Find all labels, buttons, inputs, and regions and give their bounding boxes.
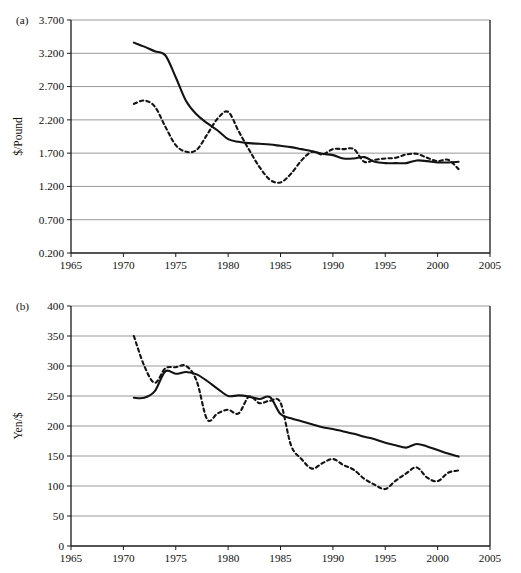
x-tick-label: 1990 (322, 552, 345, 564)
x-axis-ticks: 196519701975198019851990199520002005 (60, 253, 502, 271)
gridlines-group (71, 53, 490, 219)
y-tick-label: 350 (47, 330, 64, 342)
y-axis-title: Yen/$ (12, 412, 25, 439)
y-tick-label: 1.200 (39, 180, 65, 192)
gridlines-group (71, 336, 490, 516)
x-tick-label: 1975 (165, 552, 188, 564)
chart-panel-b: 0501001502002503003504001965197019751980… (0, 288, 521, 573)
y-tick-label: 3.700 (39, 14, 65, 26)
y-tick-label: 0.700 (39, 214, 65, 226)
figure-container: 0.2000.7001.2001.7002.2002.7003.2003.700… (0, 0, 521, 573)
series-line-dashed (134, 336, 459, 489)
x-tick-label: 1970 (112, 259, 135, 271)
x-tick-label: 2005 (479, 259, 502, 271)
series-line-solid (134, 43, 459, 164)
panel-label: (a) (16, 14, 29, 27)
x-tick-label: 1995 (374, 552, 397, 564)
chart-panel-a: 0.2000.7001.2001.7002.2002.7003.2003.700… (0, 0, 521, 290)
x-tick-label: 2005 (479, 552, 502, 564)
series-group (134, 43, 459, 183)
series-line-solid (134, 371, 459, 457)
series-group (134, 336, 459, 489)
x-tick-label: 1995 (374, 259, 397, 271)
x-axis-ticks: 196519701975198019851990199520002005 (60, 546, 502, 564)
y-axis-ticks: 0.2000.7001.2001.7002.2002.7003.2003.700 (39, 14, 71, 259)
y-axis-ticks: 050100150200250300350400 (47, 300, 71, 552)
panel-label: (b) (16, 300, 29, 313)
x-tick-label: 1985 (269, 552, 292, 564)
y-tick-label: 0.200 (39, 247, 65, 259)
y-tick-label: 1.700 (39, 147, 65, 159)
x-tick-label: 1980 (217, 259, 240, 271)
x-tick-label: 1985 (269, 259, 292, 271)
y-tick-label: 200 (47, 420, 64, 432)
x-tick-label: 1975 (165, 259, 188, 271)
x-tick-label: 1965 (60, 259, 83, 271)
x-tick-label: 1965 (60, 552, 83, 564)
y-tick-label: 0 (58, 540, 64, 552)
x-tick-label: 1980 (217, 552, 240, 564)
y-tick-label: 3.200 (39, 47, 65, 59)
y-tick-label: 2.200 (39, 114, 65, 126)
axes-group (71, 20, 490, 253)
y-tick-label: 100 (47, 480, 64, 492)
y-tick-label: 150 (47, 450, 64, 462)
x-tick-label: 2000 (426, 552, 449, 564)
x-tick-label: 1990 (322, 259, 345, 271)
x-tick-label: 2000 (426, 259, 449, 271)
x-tick-label: 1970 (112, 552, 135, 564)
series-line-dashed (134, 101, 459, 183)
chart-b-svg: 0501001502002503003504001965197019751980… (0, 288, 521, 573)
y-tick-label: 400 (47, 300, 64, 312)
y-tick-label: 50 (53, 510, 65, 522)
chart-a-svg: 0.2000.7001.2001.7002.2002.7003.2003.700… (0, 0, 521, 290)
y-tick-label: 2.700 (39, 80, 65, 92)
y-axis-title: $/Pound (12, 117, 25, 156)
y-tick-label: 300 (47, 360, 64, 372)
y-tick-label: 250 (47, 390, 64, 402)
